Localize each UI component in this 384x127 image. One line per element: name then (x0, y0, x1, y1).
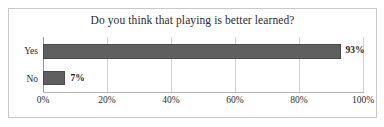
x-tick-label-40: 40% (162, 95, 179, 105)
plot-area: 93% 7% (43, 37, 363, 92)
x-axis-tick-labels: 0% 20% 40% 60% 80% 100% (43, 95, 363, 111)
bar-no[interactable] (43, 71, 65, 85)
bar-row: 93% (43, 37, 363, 65)
y-axis-label-slot: Yes (9, 37, 38, 65)
bar-yes[interactable] (43, 44, 341, 59)
x-tick-label-60: 60% (226, 95, 243, 105)
y-axis-category-labels: Yes No (9, 37, 38, 92)
x-tick-label-80: 80% (290, 95, 307, 105)
bar-value-no: 7% (70, 71, 84, 85)
bar-value-yes: 93% (346, 43, 365, 57)
x-tick-label-100: 100% (352, 95, 374, 105)
y-axis-label-slot: No (9, 65, 38, 93)
chart-title: Do you think that playing is better lear… (9, 14, 376, 26)
x-axis-line (43, 92, 364, 93)
x-tick-label-0: 0% (37, 95, 50, 105)
y-axis-label-yes: Yes (8, 44, 38, 58)
bar-row: 7% (43, 65, 363, 93)
y-axis-label-no: No (8, 72, 38, 86)
bar-chart-figure: Do you think that playing is better lear… (8, 8, 377, 118)
x-tick-label-20: 20% (98, 95, 115, 105)
